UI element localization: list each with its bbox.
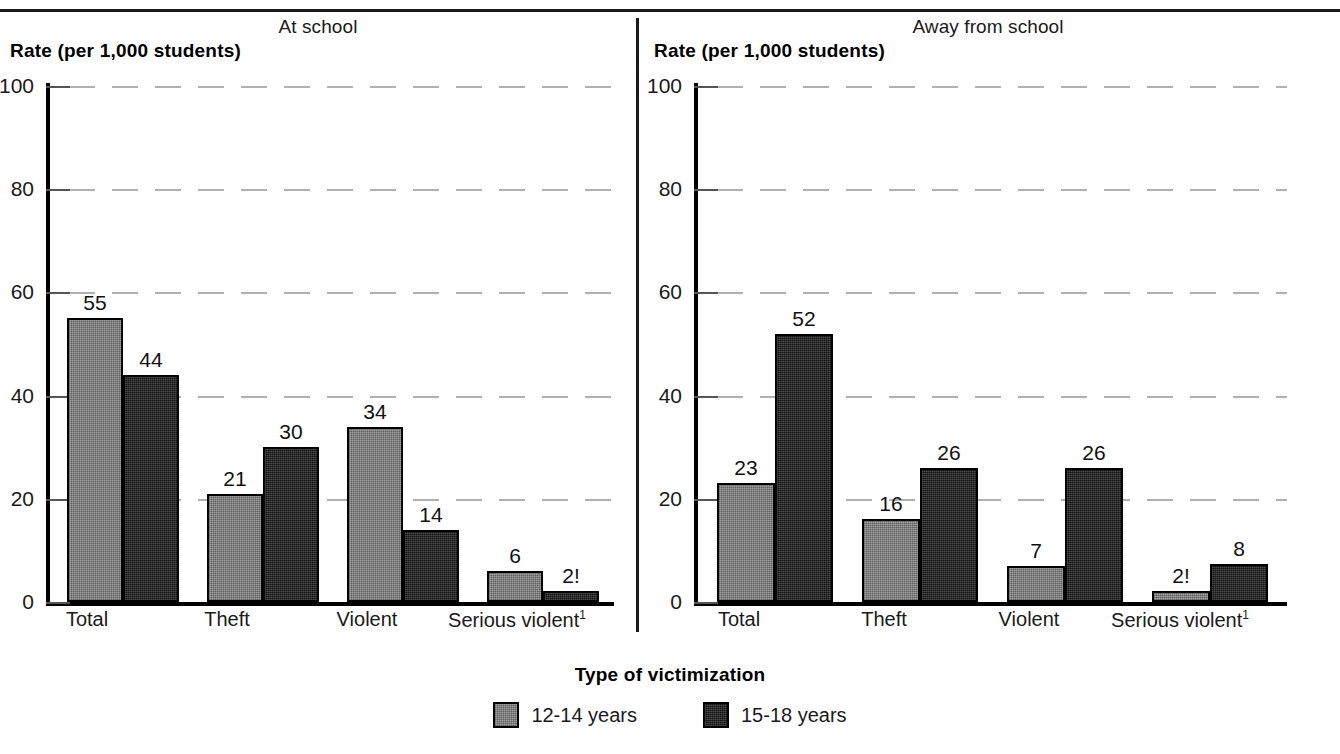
footnote-marker-right: 1 — [1242, 608, 1249, 622]
panel-at-school: At school Rate (per 1,000 students) 100 … — [0, 0, 636, 640]
bar-serious-violent-12-14-right[interactable]: 2! — [1152, 591, 1210, 602]
category-label-theft-left: Theft — [167, 608, 287, 631]
x-axis-line-right — [694, 602, 1287, 606]
category-label-violent-right: Violent — [967, 608, 1091, 631]
plot-area-right: 100 80 60 40 20 0 — [697, 86, 1287, 602]
bar-group-serious-violent-right: 2! 8 — [1152, 86, 1276, 602]
bar-total-12-14-right[interactable]: 23 — [717, 483, 775, 602]
bar-value-serious-violent-12-14-left: 6 — [509, 544, 521, 568]
panel-away-from-school: Away from school Rate (per 1,000 student… — [648, 0, 1340, 640]
bar-theft-12-14-right[interactable]: 16 — [862, 519, 920, 602]
bar-total-15-18-right[interactable]: 52 — [775, 334, 833, 602]
bar-total-12-14-left[interactable]: 55 — [67, 318, 123, 602]
bar-value-theft-15-18-left: 30 — [279, 420, 302, 444]
category-label-theft-left-text: Theft — [204, 608, 250, 630]
bar-value-total-15-18-left: 44 — [139, 348, 162, 372]
y-axis-title-right: Rate (per 1,000 students) — [654, 40, 885, 62]
bar-value-total-15-18-right: 52 — [792, 307, 815, 331]
bar-group-total-left: 55 44 — [67, 86, 187, 602]
bar-value-serious-violent-12-14-right: 2! — [1172, 564, 1190, 588]
legend-item-15-18-years[interactable]: 15-18 years — [703, 702, 847, 728]
bar-value-violent-12-14-left: 34 — [363, 400, 386, 424]
tick-label-40-left: 40 — [11, 384, 34, 408]
bar-serious-violent-12-14-left[interactable]: 6 — [487, 571, 543, 602]
bar-theft-15-18-right[interactable]: 26 — [920, 468, 978, 602]
category-label-serious-violent-right-text: Serious violent — [1111, 609, 1242, 631]
category-label-violent-left-text: Violent — [337, 608, 398, 630]
legend-label-15-18-years: 15-18 years — [741, 704, 847, 727]
tick-40-right: 40 — [694, 396, 718, 398]
bar-violent-12-14-left[interactable]: 34 — [347, 427, 403, 602]
tick-label-40-right: 40 — [659, 384, 682, 408]
bar-value-total-12-14-right: 23 — [734, 456, 757, 480]
bar-theft-15-18-left[interactable]: 30 — [263, 447, 319, 602]
panel-title-away-from-school: Away from school — [688, 16, 1288, 38]
x-axis-title: Type of victimization — [0, 664, 1340, 686]
bar-value-theft-12-14-right: 16 — [879, 492, 902, 516]
tick-0-left: 0 — [46, 602, 70, 604]
tick-80-right: 80 — [694, 189, 718, 191]
bar-group-total-right: 23 52 — [717, 86, 841, 602]
panel-divider-rule — [636, 18, 639, 632]
legend-swatch-15-18-years — [703, 702, 729, 728]
bar-serious-violent-15-18-right[interactable]: 8 — [1210, 564, 1268, 602]
tick-label-60-left: 60 — [11, 280, 34, 304]
category-label-serious-violent-left-text: Serious violent — [448, 609, 579, 631]
panel-title-at-school: At school — [0, 16, 636, 38]
tick-label-80-right: 80 — [659, 177, 682, 201]
bar-group-theft-left: 21 30 — [207, 86, 327, 602]
bar-value-serious-violent-15-18-left: 2! — [562, 564, 580, 588]
category-label-violent-right-text: Violent — [999, 608, 1060, 630]
category-label-serious-violent-right: Serious violent1 — [1080, 608, 1280, 632]
category-label-serious-violent-left: Serious violent1 — [417, 608, 617, 632]
y-axis-line-right — [694, 83, 698, 602]
bar-group-violent-right: 7 26 — [1007, 86, 1131, 602]
legend-swatch-12-14-years — [493, 702, 519, 728]
tick-label-100-left: 100 — [0, 74, 34, 98]
tick-label-20-left: 20 — [11, 487, 34, 511]
y-axis-line-left — [46, 83, 50, 602]
category-label-violent-left: Violent — [307, 608, 427, 631]
tick-0-right: 0 — [694, 602, 718, 604]
bar-violent-12-14-right[interactable]: 7 — [1007, 566, 1065, 602]
footnote-marker-left: 1 — [579, 608, 586, 622]
category-label-total-right-text: Total — [718, 608, 760, 630]
bar-serious-violent-15-18-left[interactable]: 2! — [543, 591, 599, 602]
category-label-total-left: Total — [27, 608, 147, 631]
bar-value-violent-12-14-right: 7 — [1030, 539, 1042, 563]
bar-group-violent-left: 34 14 — [347, 86, 467, 602]
bar-value-violent-15-18-right: 26 — [1082, 441, 1105, 465]
bar-total-15-18-left[interactable]: 44 — [123, 375, 179, 602]
bar-group-theft-right: 16 26 — [862, 86, 986, 602]
bar-violent-15-18-right[interactable]: 26 — [1065, 468, 1123, 602]
tick-label-100-right: 100 — [647, 74, 682, 98]
tick-label-20-right: 20 — [659, 487, 682, 511]
chart-figure: At school Rate (per 1,000 students) 100 … — [0, 0, 1340, 754]
bar-value-violent-15-18-left: 14 — [419, 503, 442, 527]
chart-legend: 12-14 years 15-18 years — [0, 702, 1340, 728]
bar-value-serious-violent-15-18-right: 8 — [1233, 537, 1245, 561]
x-axis-line-left — [46, 602, 614, 606]
tick-60-right: 60 — [694, 292, 718, 294]
tick-20-right: 20 — [694, 499, 718, 501]
bar-theft-12-14-left[interactable]: 21 — [207, 494, 263, 602]
tick-label-60-right: 60 — [659, 280, 682, 304]
bar-violent-15-18-left[interactable]: 14 — [403, 530, 459, 602]
legend-item-12-14-years[interactable]: 12-14 years — [493, 702, 637, 728]
tick-100-right: 100 — [694, 86, 718, 88]
category-label-theft-right: Theft — [822, 608, 946, 631]
category-label-total-right: Total — [677, 608, 801, 631]
bar-value-theft-12-14-left: 21 — [223, 467, 246, 491]
category-label-total-left-text: Total — [66, 608, 108, 630]
bar-value-total-12-14-left: 55 — [83, 291, 106, 315]
tick-label-80-left: 80 — [11, 177, 34, 201]
bar-group-serious-violent-left: 6 2! — [487, 86, 607, 602]
y-axis-title-left: Rate (per 1,000 students) — [10, 40, 241, 62]
category-label-theft-right-text: Theft — [861, 608, 907, 630]
plot-area-left: 100 80 60 40 20 0 — [49, 86, 614, 602]
legend-label-12-14-years: 12-14 years — [531, 704, 637, 727]
bar-value-theft-15-18-right: 26 — [937, 441, 960, 465]
